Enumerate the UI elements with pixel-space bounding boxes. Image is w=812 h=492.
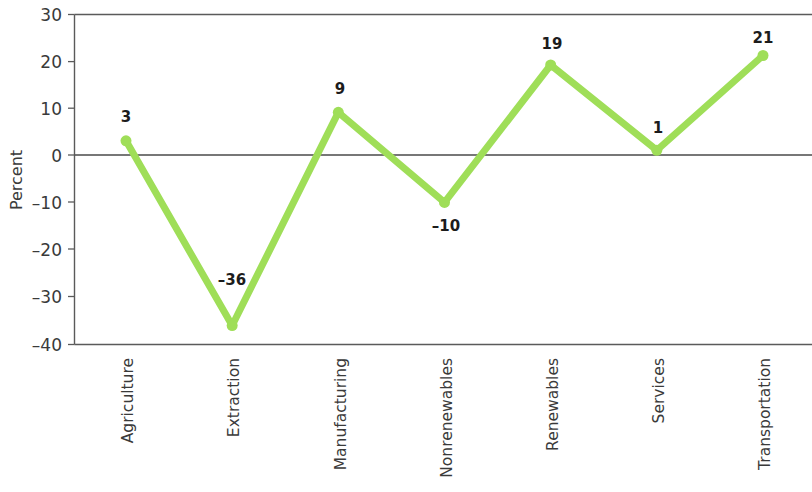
data-value-label: –36 <box>218 271 246 289</box>
data-value-labels: 3 –36 9 –10 19 1 21 <box>121 29 774 289</box>
x-tick-label-transportation: Transportation <box>756 358 774 471</box>
y-axis-title: Percent <box>7 150 26 210</box>
y-tick-label: 0 <box>51 146 62 166</box>
y-axis-ticks <box>68 15 75 345</box>
data-point-marker <box>227 320 238 331</box>
line-chart: 30 20 10 0 –10 –20 –30 –40 Percent 3 –36… <box>0 0 812 492</box>
y-tick-label: –40 <box>32 335 62 355</box>
data-value-label: 3 <box>121 108 131 126</box>
x-tick-label-extraction: Extraction <box>225 358 243 437</box>
chart-canvas: 30 20 10 0 –10 –20 –30 –40 Percent 3 –36… <box>0 0 812 492</box>
data-value-label: 21 <box>753 29 774 47</box>
data-value-label: –10 <box>432 217 460 235</box>
x-tick-label-manufacturing: Manufacturing <box>332 358 350 470</box>
data-point-marker <box>758 50 769 61</box>
data-value-label: 19 <box>542 35 563 53</box>
data-point-marker <box>439 197 450 208</box>
x-tick-label-services: Services <box>650 358 668 423</box>
y-tick-label: –30 <box>32 287 62 307</box>
data-value-label: 9 <box>335 80 345 98</box>
data-point-marker <box>121 135 132 146</box>
y-tick-label: –20 <box>32 240 62 260</box>
y-tick-label: 10 <box>40 99 62 119</box>
y-tick-label: 30 <box>40 5 62 25</box>
y-axis-tick-labels: 30 20 10 0 –10 –20 –30 –40 <box>32 5 62 355</box>
x-tick-label-agriculture: Agriculture <box>119 358 137 443</box>
x-tick-label-renewables: Renewables <box>544 358 562 451</box>
data-point-marker <box>333 107 344 118</box>
x-axis-category-labels: Agriculture Extraction Manufacturing Non… <box>119 358 774 478</box>
data-point-marker <box>545 59 556 70</box>
data-point-marker <box>651 145 662 156</box>
x-tick-label-nonrenewables: Nonrenewables <box>438 358 456 478</box>
y-tick-label: 20 <box>40 52 62 72</box>
plot-frame <box>75 15 812 345</box>
y-tick-label: –10 <box>32 193 62 213</box>
data-value-label: 1 <box>653 119 663 137</box>
